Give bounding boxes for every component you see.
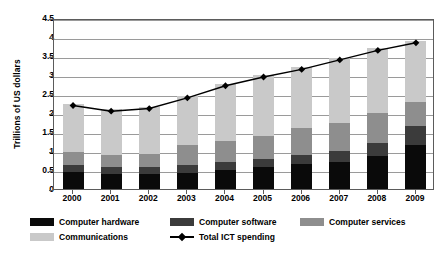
legend-label: Computer hardware: [59, 217, 139, 227]
legend-swatch: [30, 233, 54, 241]
y-axis-tick-mark: [49, 76, 53, 77]
legend-item[interactable]: Computer software: [170, 214, 276, 229]
line-marker: [336, 57, 343, 64]
y-axis-tick-mark: [49, 19, 53, 20]
y-axis-tick-mark: [49, 152, 53, 153]
legend-item[interactable]: Communications: [30, 229, 128, 244]
x-axis-tick-mark: [377, 190, 378, 194]
legend-row-1: Computer hardwareComputer softwareComput…: [0, 214, 443, 229]
x-axis-tick-mark: [263, 190, 264, 194]
y-axis-tick-mark: [49, 171, 53, 172]
line-path: [73, 43, 416, 111]
x-axis-tick-mark: [224, 190, 225, 194]
legend-swatch: [170, 218, 194, 226]
x-axis-tick-label: 2009: [393, 193, 437, 203]
line-marker: [222, 82, 229, 89]
legend-row-2: CommunicationsTotal ICT spending: [0, 229, 443, 244]
y-axis-tick-mark: [49, 114, 53, 115]
y-axis-tick-mark: [49, 57, 53, 58]
line-marker: [413, 39, 420, 46]
line-marker: [298, 66, 305, 73]
y-axis-tick-mark: [49, 133, 53, 134]
chart-legend: Computer hardwareComputer softwareComput…: [0, 214, 443, 244]
legend-label: Computer software: [199, 217, 276, 227]
ict-spending-chart: Trillions of US dollars 4.543.532.521.51…: [0, 0, 443, 261]
total-ict-spending-line: [54, 20, 435, 191]
line-marker: [184, 95, 191, 102]
x-axis-tick-mark: [72, 190, 73, 194]
line-marker: [374, 47, 381, 54]
legend-line-marker-icon: [170, 233, 194, 241]
line-marker: [146, 105, 153, 112]
legend-label: Communications: [59, 232, 128, 242]
legend-item[interactable]: Computer hardware: [30, 214, 139, 229]
plot-area: [53, 19, 434, 190]
legend-item[interactable]: Total ICT spending: [170, 229, 275, 244]
x-axis-tick-mark: [148, 190, 149, 194]
line-marker: [108, 108, 115, 115]
line-marker: [70, 102, 77, 109]
legend-swatch: [300, 218, 324, 226]
x-axis-tick-mark: [301, 190, 302, 194]
x-axis-tick-mark: [186, 190, 187, 194]
y-axis-title: Trillions of US dollars: [12, 24, 22, 184]
y-axis-tick-mark: [49, 95, 53, 96]
y-axis-tick-mark: [49, 190, 53, 191]
legend-swatch: [30, 218, 54, 226]
legend-label: Total ICT spending: [199, 232, 275, 242]
y-axis-tick-mark: [49, 38, 53, 39]
legend-item[interactable]: Computer services: [300, 214, 406, 229]
x-axis-tick-mark: [415, 190, 416, 194]
x-axis-tick-mark: [110, 190, 111, 194]
line-marker: [260, 74, 267, 81]
x-axis-tick-mark: [339, 190, 340, 194]
legend-label: Computer services: [329, 217, 406, 227]
